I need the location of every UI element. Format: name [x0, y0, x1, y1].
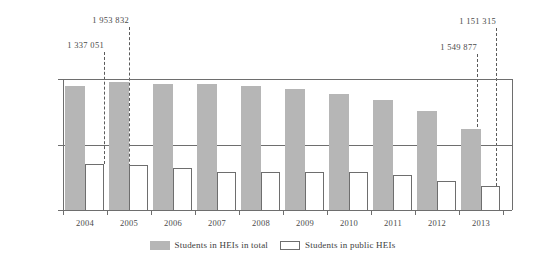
- bar-chart: 2 000 000 1 500 000 1 000 000 1 337 051 …: [0, 0, 545, 268]
- x-tick-mark-0: [63, 210, 64, 215]
- x-tick-mark-10: [503, 210, 504, 215]
- x-tick-mark-4: [239, 210, 240, 215]
- plot-right-edge: [512, 79, 513, 210]
- x-axis-line: [63, 210, 512, 211]
- annotation-label-1337051: 1 337 051: [67, 40, 104, 50]
- gridline-2000000: [63, 79, 512, 80]
- legend-label-total: Students in HEIs in total: [175, 240, 269, 250]
- annotation-label-1549877: 1 549 877: [440, 42, 477, 52]
- y-tick-mark-1500000: [58, 145, 63, 146]
- x-tick-mark-2: [151, 210, 152, 215]
- x-axis-label-2008: 2008: [241, 218, 281, 228]
- bar-public-2004: [85, 164, 104, 210]
- bar-total-2004: [65, 86, 85, 210]
- bar-total-2005: [109, 82, 129, 210]
- x-axis-label-2010: 2010: [329, 218, 369, 228]
- bar-total-2009: [285, 89, 305, 210]
- x-axis-label-2007: 2007: [197, 218, 237, 228]
- bar-total-2013: [461, 129, 481, 210]
- annotation-label-1151315: 1 151 315: [459, 16, 496, 26]
- plot-area: 2004 2005 2006 2007 2008 2009 2010 2011 …: [63, 79, 512, 210]
- x-tick-mark-8: [415, 210, 416, 215]
- x-tick-mark-1: [107, 210, 108, 215]
- x-tick-mark-3: [195, 210, 196, 215]
- x-axis-label-2009: 2009: [285, 218, 325, 228]
- bar-public-2006: [173, 168, 192, 210]
- bar-public-2009: [305, 172, 324, 210]
- bar-public-2008: [261, 172, 280, 210]
- legend-item-total: Students in HEIs in total: [150, 240, 269, 250]
- x-axis-label-2012: 2012: [417, 218, 457, 228]
- x-tick-mark-9: [459, 210, 460, 215]
- x-tick-mark-7: [371, 210, 372, 215]
- legend-label-public: Students in public HEIs: [305, 240, 395, 250]
- white-outlined-swatch-icon: [280, 241, 300, 250]
- bar-total-2007: [197, 84, 217, 210]
- bar-public-2013: [481, 186, 500, 210]
- bar-total-2012: [417, 111, 437, 210]
- gray-filled-swatch-icon: [150, 241, 170, 250]
- bar-total-2006: [153, 84, 173, 210]
- annotation-label-1953832: 1 953 832: [92, 15, 129, 25]
- x-axis-label-2013: 2013: [461, 218, 501, 228]
- x-axis-label-2011: 2011: [373, 218, 413, 228]
- y-tick-mark-2000000: [58, 79, 63, 80]
- x-axis-label-2006: 2006: [153, 218, 193, 228]
- legend-item-public: Students in public HEIs: [280, 240, 395, 250]
- bar-public-2010: [349, 172, 368, 210]
- chart-legend: Students in HEIs in total Students in pu…: [0, 240, 545, 250]
- bar-public-2011: [393, 175, 412, 210]
- bar-total-2010: [329, 94, 349, 210]
- bar-total-2008: [241, 86, 261, 210]
- x-tick-mark-5: [283, 210, 284, 215]
- bar-public-2005: [129, 165, 148, 210]
- bar-public-2012: [437, 181, 456, 210]
- x-axis-label-2004: 2004: [65, 218, 105, 228]
- x-axis-label-2005: 2005: [109, 218, 149, 228]
- bar-public-2007: [217, 172, 236, 210]
- bar-total-2011: [373, 100, 393, 210]
- x-tick-mark-6: [327, 210, 328, 215]
